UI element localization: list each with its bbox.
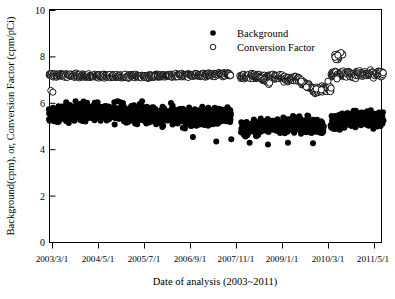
x-tick-label-1: 2004/5/1 <box>82 254 115 264</box>
x-axis-title: Date of analysis (2003~2011) <box>153 276 278 288</box>
x-tick-label-2: 2005/7/1 <box>128 254 161 264</box>
legend-marker-conversion-factor-icon <box>210 44 216 50</box>
y-tick-label-2: 2 <box>40 191 45 202</box>
x-tick-label-5: 2009/1/1 <box>266 254 299 264</box>
y-tick-label-6: 6 <box>40 98 45 109</box>
y-tick-label-10: 10 <box>35 5 45 16</box>
x-tick-label-4: 2007/11/1 <box>218 254 255 264</box>
chart-figure: 0 2 4 6 8 10 2003/3/1 2004/5/1 2005/7/1 … <box>0 0 395 299</box>
x-tick-label-0: 2003/3/1 <box>36 254 69 264</box>
legend-marker-background-icon <box>210 30 216 36</box>
legend-label-background: Background <box>237 28 289 39</box>
x-tick-label-6: 2010/3/1 <box>312 254 345 264</box>
x-tick-label-3: 2006/9/1 <box>174 254 207 264</box>
x-axis-ticks <box>53 243 375 249</box>
y-tick-label-0: 0 <box>40 237 45 248</box>
x-tick-label-7: 2011/5/1 <box>357 254 390 264</box>
y-tick-label-4: 4 <box>40 144 45 155</box>
scatter-plot-svg: 0 2 4 6 8 10 2003/3/1 2004/5/1 2005/7/1 … <box>0 0 395 299</box>
y-axis-title: Background(cpm), or, Conversion Factor (… <box>5 16 17 235</box>
y-tick-label-8: 8 <box>40 51 45 62</box>
legend-label-conversion-factor: Conversion Factor <box>237 42 315 53</box>
